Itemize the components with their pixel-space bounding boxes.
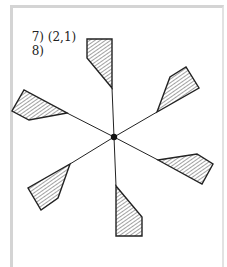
blade-upper-left (12, 90, 67, 120)
center-point (111, 134, 117, 140)
blade-top (87, 39, 112, 88)
blade-lower-left (28, 164, 70, 210)
blade-upper-right (157, 67, 199, 112)
blade-lower-right (158, 154, 213, 184)
blade-bottom (116, 186, 142, 236)
